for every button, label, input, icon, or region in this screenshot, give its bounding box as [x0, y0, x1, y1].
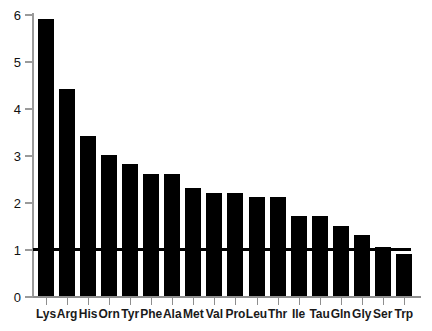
bar-ala — [164, 174, 180, 296]
reference-line-y1 — [33, 248, 411, 251]
y-tick-0: 0 — [25, 296, 33, 298]
bar-trp — [396, 254, 412, 296]
y-tick-label-2: 2 — [14, 197, 21, 210]
bar-lys — [38, 19, 54, 296]
bar-phe — [143, 174, 159, 296]
x-label-trp: Trp — [395, 307, 414, 321]
y-tick-label-1: 1 — [14, 244, 21, 257]
y-tick-label-0: 0 — [14, 291, 21, 304]
x-label-gln: Gln — [331, 307, 351, 321]
x-tick-phe — [151, 298, 152, 305]
y-tick-4: 4 — [25, 108, 33, 110]
x-tick-gly — [362, 298, 363, 305]
x-tick-arg — [67, 298, 68, 305]
bar-his — [80, 136, 96, 296]
x-label-tyr: Tyr — [121, 307, 139, 321]
x-label-his: His — [79, 307, 98, 321]
x-label-tau: Tau — [309, 307, 329, 321]
x-label-gly: Gly — [352, 307, 371, 321]
x-tick-ile — [299, 298, 300, 305]
x-tick-ala — [172, 298, 173, 305]
y-tick-2: 2 — [25, 202, 33, 204]
bar-ser — [375, 247, 391, 296]
y-tick-label-6: 6 — [14, 9, 21, 22]
x-tick-his — [88, 298, 89, 305]
x-tick-tau — [320, 298, 321, 305]
bar-met — [185, 188, 201, 296]
x-axis-labels: LysArgHisOrnTyrPheAlaMetValProLeuThrIleT… — [0, 307, 432, 327]
x-label-leu: Leu — [246, 307, 267, 321]
bar-ile — [291, 216, 307, 296]
x-tick-val — [214, 298, 215, 305]
x-tick-leu — [257, 298, 258, 305]
plot-area — [33, 14, 432, 296]
x-tick-pro — [235, 298, 236, 305]
x-tick-met — [193, 298, 194, 305]
x-label-arg: Arg — [57, 307, 78, 321]
bar-tyr — [122, 164, 138, 296]
bar-gly — [354, 235, 370, 296]
x-tick-tyr — [130, 298, 131, 305]
y-tick-6: 6 — [25, 14, 33, 16]
x-label-pro: Pro — [225, 307, 245, 321]
x-tick-lys — [46, 298, 47, 305]
x-label-lys: Lys — [36, 307, 56, 321]
bar-val — [206, 193, 222, 296]
y-tick-label-5: 5 — [14, 56, 21, 69]
bar-arg — [59, 89, 75, 296]
y-tick-3: 3 — [25, 155, 33, 157]
y-tick-label-4: 4 — [14, 103, 21, 116]
bar-gln — [333, 226, 349, 297]
x-label-phe: Phe — [140, 307, 162, 321]
bar-thr — [270, 197, 286, 296]
x-label-ile: Ile — [292, 307, 305, 321]
x-label-ala: Ala — [163, 307, 182, 321]
y-tick-1: 1 — [25, 249, 33, 251]
y-tick-label-3: 3 — [14, 150, 21, 163]
x-label-orn: Orn — [98, 307, 119, 321]
bar-tau — [312, 216, 328, 296]
x-label-ser: Ser — [373, 307, 392, 321]
x-label-met: Met — [183, 307, 204, 321]
bar-chart: 0123456 LysArgHisOrnTyrPheAlaMetValProLe… — [0, 0, 432, 331]
x-label-thr: Thr — [268, 307, 287, 321]
x-label-val: Val — [206, 307, 223, 321]
x-tick-ser — [383, 298, 384, 305]
x-tick-gln — [341, 298, 342, 305]
y-tick-5: 5 — [25, 61, 33, 63]
x-tick-thr — [278, 298, 279, 305]
bar-orn — [101, 155, 117, 296]
x-tick-trp — [404, 298, 405, 305]
bar-leu — [249, 197, 265, 296]
x-tick-orn — [109, 298, 110, 305]
bar-pro — [227, 193, 243, 296]
